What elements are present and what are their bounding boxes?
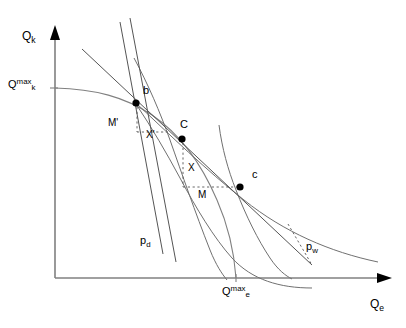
upper-welfare-curve-group (136, 103, 378, 262)
production-possibility-frontier (55, 88, 236, 278)
point-C-marker (178, 135, 185, 142)
point-b-label: b (143, 85, 149, 96)
qk-max-label: Qmaxk (8, 78, 35, 92)
label-M: M (198, 190, 206, 200)
domestic-price-line-group (130, 18, 176, 262)
label-M-prime: M' (108, 118, 118, 128)
x-axis-label: Qe (370, 298, 384, 312)
upper-welfare-curve (136, 103, 378, 262)
world-price-line-group (82, 49, 312, 265)
point-b-marker (132, 99, 139, 106)
x-axis-arrowhead (377, 273, 392, 283)
secondary-steep-line-group (120, 22, 163, 254)
y-axis-arrowhead (50, 25, 60, 40)
point-c-marker (236, 183, 243, 190)
economics-diagram-figure: Qk Qe Qmaxk Qmaxe b C c M' X' X M pd pw (0, 0, 406, 328)
point-c-label: c (252, 169, 258, 180)
y-axis-label: Qk (22, 30, 36, 44)
point-C-label: C (180, 119, 188, 130)
ppf-curve-group (55, 88, 236, 278)
secondary-steep-line (120, 22, 163, 254)
label-pd: pd (140, 235, 151, 248)
tick-group (50, 88, 236, 282)
diagram-canvas (0, 0, 406, 328)
label-pw: pw (306, 241, 318, 254)
label-X: X (188, 163, 195, 173)
label-X-prime: X' (146, 130, 155, 140)
qe-max-label: Qmaxe (222, 285, 250, 299)
domestic-price-line-pd (130, 18, 176, 262)
world-price-line-pw (82, 49, 312, 265)
